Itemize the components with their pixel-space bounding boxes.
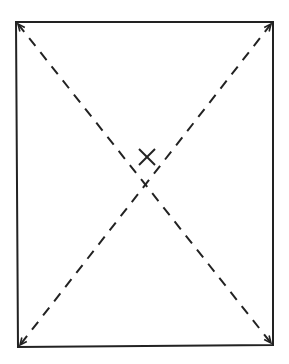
center-x-mark-icon <box>139 149 155 165</box>
diagram-canvas <box>0 0 289 364</box>
rectangle-diagonals-diagram <box>0 0 289 364</box>
